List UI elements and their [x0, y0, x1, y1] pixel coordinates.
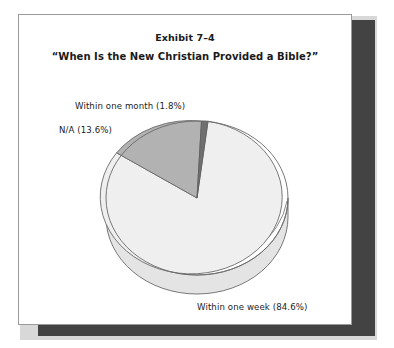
figure-page: Exhibit 7–4 “When Is the New Christian P…: [0, 0, 394, 348]
label-within-one-month: Within one month (1.8%): [75, 101, 185, 111]
pie-chart-svg: [19, 15, 353, 326]
label-na: N/A (13.6%): [59, 125, 112, 135]
pie-chart: Within one month (1.8%) N/A (13.6%) With…: [19, 15, 353, 326]
exhibit-card: Exhibit 7–4 “When Is the New Christian P…: [18, 14, 352, 325]
label-within-one-week: Within one week (84.6%): [197, 302, 307, 312]
